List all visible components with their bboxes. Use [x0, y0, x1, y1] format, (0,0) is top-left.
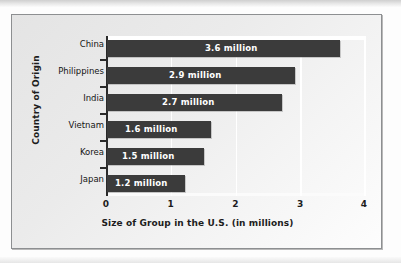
bar-india[interactable]: 2.7 million — [107, 94, 282, 111]
scan-edge-top — [0, 0, 401, 7]
bar-philippines[interactable]: 2.9 million — [107, 67, 295, 84]
x-axis-tick-label-2: 2 — [226, 199, 246, 209]
y-axis-tick-2 — [100, 86, 106, 88]
bar-label-philippines: 2.9 million — [169, 67, 222, 84]
x-axis-tick-label-4: 4 — [354, 199, 374, 209]
y-axis-tick-3 — [100, 113, 106, 115]
y-axis-tick-1 — [100, 59, 106, 61]
x-axis-title: Size of Group in the U.S. (in millions) — [12, 218, 383, 228]
x-axis-tick-label-3: 3 — [290, 199, 310, 209]
y-axis-category-labels: China Philippines India Vietnam Korea Ja… — [40, 36, 104, 196]
chart-page: Country of Origin China Philippines Indi… — [0, 0, 401, 263]
bar-label-japan: 1.2 million — [115, 175, 168, 192]
y-axis-label-india: India — [40, 93, 104, 103]
y-axis-label-philippines: Philippines — [40, 66, 104, 76]
bar-china[interactable]: 3.6 million — [107, 40, 340, 57]
gridline-2 — [236, 36, 238, 196]
y-axis-tick-4 — [100, 140, 106, 142]
bar-label-india: 2.7 million — [162, 94, 215, 111]
bar-japan[interactable]: 1.2 million — [107, 175, 185, 192]
x-axis-tick-label-0: 0 — [96, 199, 116, 209]
y-axis-tick-5 — [100, 167, 106, 169]
chart-figure-frame: Country of Origin China Philippines Indi… — [11, 14, 382, 249]
bar-label-korea: 1.5 million — [122, 148, 175, 165]
x-axis-tick-label-1: 1 — [161, 199, 181, 209]
bar-vietnam[interactable]: 1.6 million — [107, 121, 211, 138]
y-axis-label-china: China — [40, 39, 104, 49]
bar-label-vietnam: 1.6 million — [125, 121, 178, 138]
bar-label-china: 3.6 million — [205, 40, 258, 57]
bar-korea[interactable]: 1.5 million — [107, 148, 204, 165]
gridline-1 — [171, 36, 173, 196]
x-axis-tick-labels: 0 1 2 3 4 — [106, 199, 365, 213]
y-axis-label-vietnam: Vietnam — [40, 120, 104, 130]
y-axis-label-korea: Korea — [40, 147, 104, 157]
scan-edge-bottom — [0, 257, 401, 263]
plot-area: 3.6 million 2.9 million 2.7 million 1.6 … — [106, 36, 365, 196]
y-axis-label-japan: Japan — [40, 174, 104, 184]
gridline-3 — [300, 36, 302, 196]
y-axis-line — [106, 36, 108, 196]
gridline-4 — [364, 36, 366, 196]
